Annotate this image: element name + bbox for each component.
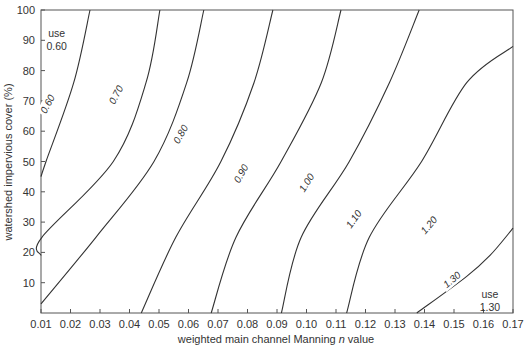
y-tick-label: 50 (23, 156, 35, 168)
plot-border (41, 10, 513, 313)
curve-1-10 (281, 10, 419, 313)
x-tick-label: 0.01 (30, 318, 51, 330)
curve-1-00 (211, 10, 341, 313)
x-tick-label: 0.08 (237, 318, 258, 330)
x-tick-label: 0.12 (355, 318, 376, 330)
curve-0-80 (41, 10, 204, 304)
y-tick-label: 60 (23, 125, 35, 137)
y-tick-label: 100 (17, 4, 35, 16)
x-tick-label: 0.13 (384, 318, 405, 330)
x-axis-title: weighted main channel Manning n value (177, 333, 374, 345)
curve-0-90 (141, 10, 273, 313)
curve-group (36, 10, 513, 313)
x-tick-label: 0.04 (119, 318, 140, 330)
annotations: use0.60use1.30 (46, 27, 500, 313)
y-tick-label: 30 (23, 216, 35, 228)
x-tick-label: 0.15 (443, 318, 464, 330)
x-tick-label: 0.10 (296, 318, 317, 330)
x-tick-label: 0.06 (178, 318, 199, 330)
chart-canvas: 0.010.020.030.040.050.060.070.080.090.10… (0, 0, 529, 349)
y-tick-label: 20 (23, 246, 35, 258)
x-tick-label: 0.11 (326, 318, 347, 330)
y-tick-label: 90 (23, 34, 35, 46)
use-annotation: use (482, 288, 499, 300)
use-annotation: use (48, 27, 65, 39)
x-tick-label: 0.09 (266, 318, 287, 330)
use-annotation: 1.30 (480, 301, 501, 313)
use-annotation: 0.60 (46, 40, 67, 52)
x-tick-label: 0.14 (414, 318, 435, 330)
x-tick-label: 0.17 (502, 318, 523, 330)
y-tick-label: 10 (23, 277, 35, 289)
x-tick-label: 0.05 (148, 318, 169, 330)
x-tick-label: 0.02 (60, 318, 81, 330)
y-axis-title: watershed impervious cover (%) (2, 83, 14, 241)
y-tick-label: 80 (23, 65, 35, 77)
curve-1-20 (347, 46, 513, 313)
x-tick-label: 0.16 (473, 318, 494, 330)
curve-labels: 0.600.700.800.901.001.101.201.30 (37, 81, 465, 292)
plot-frame (41, 10, 513, 313)
x-axis: 0.010.020.030.040.050.060.070.080.090.10… (30, 309, 523, 330)
y-tick-label: 40 (23, 186, 35, 198)
y-tick-label: 70 (23, 95, 35, 107)
x-tick-label: 0.07 (207, 318, 228, 330)
x-tick-label: 0.03 (89, 318, 110, 330)
